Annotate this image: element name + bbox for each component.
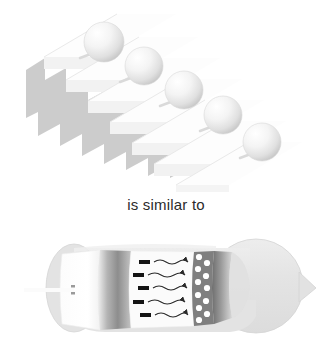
pore [196,305,202,311]
pore [203,298,209,304]
dash-1 [139,260,150,264]
inlet-rod [24,288,74,292]
comparison-figure [0,0,332,339]
pore [195,279,201,285]
dash-5 [140,313,151,317]
dash-3 [138,286,149,290]
pore [196,254,202,260]
collar-band-1 [98,250,131,330]
pore [195,292,201,298]
pore [195,266,201,272]
dash-4 [133,300,144,304]
right-nub [299,272,316,302]
pore [204,260,210,266]
sphere-1 [84,22,124,62]
caption-text: is similar to [0,196,332,214]
pore [203,273,209,279]
rod-tick-lower [71,292,75,295]
rod-tick-upper [71,285,75,288]
dash-2 [133,273,144,277]
pore-band [192,251,214,326]
pore [196,317,202,323]
sphere-4 [204,96,242,134]
sphere-3 [165,71,203,109]
cylinder-panel [24,239,316,333]
staircase-panel [26,14,302,192]
sphere-5 [243,123,281,161]
collar-band-2 [212,251,232,324]
pore [204,311,210,317]
sphere-2 [125,47,163,85]
pore [204,285,210,291]
